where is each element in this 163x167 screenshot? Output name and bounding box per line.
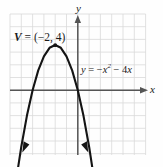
x-axis-label: x <box>150 84 155 95</box>
y-axis-label: y <box>76 3 81 14</box>
equation-label: y = −x2 − 4x <box>81 63 132 75</box>
x-axis-arrow <box>140 87 148 93</box>
vertex-label-v: V <box>14 31 22 43</box>
vertex-point <box>53 43 57 47</box>
parabola-plot <box>0 0 163 167</box>
y-axis-arrow <box>75 15 81 23</box>
equation-minus-term: − 4 <box>111 64 127 75</box>
vertex-label-equals: = ( <box>22 31 38 43</box>
right-branch-arrow <box>81 141 88 152</box>
vertex-label-x: −2 <box>38 31 50 43</box>
equation-equals: = − <box>86 64 103 75</box>
left-branch-arrow <box>22 141 29 152</box>
vertex-label-close-paren: ) <box>62 31 66 43</box>
graph-figure: V = (−2, 4) y = −x2 − 4x y x <box>0 0 163 167</box>
equation-var2: x <box>127 64 132 75</box>
vertex-label: V = (−2, 4) <box>14 32 65 44</box>
